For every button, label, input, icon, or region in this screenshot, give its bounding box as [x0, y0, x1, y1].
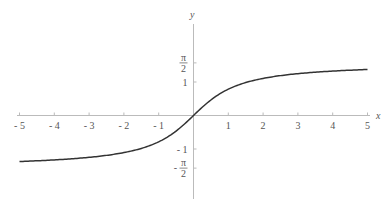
x-tick-label: 4: [330, 120, 335, 131]
svg-text:2: 2: [181, 63, 186, 74]
x-axis-label: x: [375, 110, 381, 121]
svg-text:2: 2: [181, 168, 186, 179]
axes: [17, 24, 370, 199]
y-tick-label-fraction: π2: [180, 52, 188, 74]
x-tick-label: 3: [295, 120, 300, 131]
y-tick-label-fraction: π2-: [174, 157, 188, 179]
svg-text:π: π: [181, 52, 186, 63]
svg-text:-: -: [174, 162, 177, 173]
x-tick-label: 2: [261, 120, 266, 131]
x-tick-label: - 1: [153, 120, 164, 131]
svg-text:π: π: [181, 157, 186, 168]
y-tick-label: - 1: [177, 144, 188, 155]
x-tick-label: - 2: [118, 120, 129, 131]
x-tick-label: 5: [365, 120, 370, 131]
x-tick-label: - 5: [14, 120, 25, 131]
arctan-chart: - 5- 4- 3- 2- 112345π21- 1π2- x y: [0, 0, 392, 206]
x-tick-label: - 4: [49, 120, 60, 131]
x-tick-label: 1: [226, 120, 231, 131]
y-tick-label: 1: [183, 77, 188, 88]
x-tick-label: - 3: [84, 120, 95, 131]
y-axis-label: y: [189, 9, 195, 20]
